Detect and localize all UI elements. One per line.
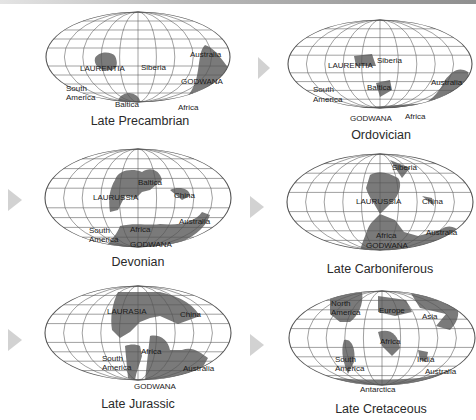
svg-text:LAURENTIA: LAURENTIA	[328, 61, 374, 70]
svg-text:Siberia: Siberia	[141, 63, 166, 72]
continental-drift-diagram: LAURENTIA Siberia Australia GODWANA Sout…	[0, 0, 476, 420]
arrow-icon	[8, 189, 22, 211]
svg-text:GODWANA: GODWANA	[181, 77, 224, 86]
map-late-carboniferous: Siberia LAURUSSIA China Africa Australia…	[287, 154, 473, 252]
svg-text:Siberia: Siberia	[392, 163, 417, 172]
svg-text:Australia: Australia	[190, 50, 222, 59]
period-label: Late Jurassic	[38, 397, 238, 411]
map-ordovician: LAURENTIA Siberia Baltica South America …	[288, 20, 475, 123]
map-late-precambrian: LAURENTIA Siberia Australia GODWANA Sout…	[40, 12, 232, 112]
svg-text:Africa: Africa	[376, 231, 397, 240]
svg-text:America: America	[66, 93, 96, 102]
svg-text:South: South	[313, 85, 334, 94]
svg-text:South: South	[102, 354, 123, 363]
svg-text:America: America	[102, 363, 132, 372]
svg-text:GODWANA: GODWANA	[134, 382, 177, 391]
svg-text:Europe: Europe	[379, 306, 405, 315]
svg-text:LAURUSSIA: LAURUSSIA	[356, 197, 402, 206]
arrow-icon	[250, 196, 264, 218]
arrow-icon	[258, 57, 270, 79]
arrow-icon	[250, 334, 264, 356]
svg-text:Africa: Africa	[178, 103, 199, 112]
svg-text:LAURASIA: LAURASIA	[107, 307, 147, 316]
svg-text:Antarctica: Antarctica	[360, 385, 396, 394]
svg-text:America: America	[89, 235, 119, 244]
svg-text:China: China	[422, 197, 443, 206]
svg-text:America: America	[335, 364, 365, 373]
svg-text:Siberia: Siberia	[377, 56, 402, 65]
svg-text:South: South	[89, 226, 110, 235]
svg-text:China: China	[180, 310, 201, 319]
svg-text:LAURENTIA: LAURENTIA	[80, 64, 126, 73]
svg-text:China: China	[174, 191, 195, 200]
svg-text:North: North	[331, 299, 351, 308]
svg-text:Africa: Africa	[380, 337, 401, 346]
map-late-jurassic: LAURASIA China Africa South America Aust…	[45, 286, 231, 391]
svg-text:Australia: Australia	[431, 78, 463, 87]
svg-text:Asia: Asia	[422, 312, 438, 321]
svg-text:Australia: Australia	[183, 364, 215, 373]
svg-text:GODWANA: GODWANA	[350, 114, 393, 123]
svg-text:Baltica: Baltica	[115, 100, 140, 109]
svg-text:America: America	[331, 308, 361, 317]
svg-text:Baltica: Baltica	[138, 178, 163, 187]
svg-text:Africa: Africa	[141, 347, 162, 356]
svg-text:South: South	[66, 84, 87, 93]
svg-text:India: India	[417, 355, 435, 364]
svg-text:Africa: Africa	[130, 225, 151, 234]
svg-text:Africa: Africa	[405, 112, 426, 121]
svg-text:Baltica: Baltica	[367, 83, 392, 92]
period-label: Late Precambrian	[40, 114, 240, 128]
svg-text:Australia: Australia	[426, 228, 458, 237]
svg-text:GODWANA: GODWANA	[130, 240, 173, 249]
svg-text:America: America	[313, 95, 343, 104]
map-late-cretaceous: North America Europe Asia Africa South A…	[289, 291, 475, 394]
svg-text:Australia: Australia	[425, 367, 457, 376]
svg-text:Australia: Australia	[179, 217, 211, 226]
svg-text:South: South	[335, 355, 356, 364]
arrow-icon	[8, 329, 22, 351]
map-devonian: Baltica LAURUSSIA China Australia South …	[45, 149, 231, 250]
period-label: Ordovician	[281, 128, 476, 142]
period-label: Late Cretaceous	[281, 402, 476, 416]
period-label: Late Carboniferous	[280, 262, 476, 276]
svg-text:LAURUSSIA: LAURUSSIA	[93, 193, 139, 202]
period-label: Devonian	[38, 255, 238, 269]
svg-text:GODWANA: GODWANA	[366, 241, 409, 250]
